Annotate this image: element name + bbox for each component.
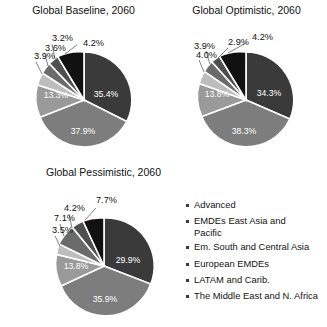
panel-title-baseline: Global Baseline, 2060 xyxy=(2,4,165,17)
legend-bullet-icon xyxy=(186,295,189,298)
legend-label-emdes-east-asia-pacific: EMDEs East Asia andPacific xyxy=(194,215,286,238)
slice-value-advanced: 35.4% xyxy=(94,89,119,99)
slice-value-advanced: 29.9% xyxy=(116,255,141,265)
legend-item-middle-east-n-africa: The Middle East and N. Africa xyxy=(186,290,327,301)
pie-svg-optimistic: 34.3% 38.3% 13.8% 4.0% 3.9% 2.9% 4.2% xyxy=(194,26,298,156)
legend-bullet-icon xyxy=(186,204,189,207)
legend-bullet-icon xyxy=(186,220,189,223)
slice-value-extra: 4.2% xyxy=(252,32,273,42)
legend-item-advanced: Advanced xyxy=(186,199,327,210)
legend-item-european-emdes: European EMDEs xyxy=(186,258,327,269)
pie-chart-figure: Global Baseline, 2060 35.4% xyxy=(0,0,327,327)
slice-value-em-south-central-asia: 13.8% xyxy=(64,261,89,271)
legend-label-advanced: Advanced xyxy=(194,199,236,210)
pie-baseline: 35.4% 37.9% 13.3% 3.9% 3.6% 3.2% 4.2% xyxy=(32,26,136,156)
panel-global-pessimistic: Global Pessimistic, 2060 29.9% 35.9% xyxy=(22,166,185,326)
slice-value-em-south-central-asia: 13.3% xyxy=(44,90,69,100)
legend-label-em-south-central-asia: Em. South and Central Asia xyxy=(194,241,309,252)
legend-label-latam-carib: LATAM and Carib. xyxy=(194,274,270,285)
legend-bullet-icon xyxy=(186,263,189,266)
panel-title-pessimistic: Global Pessimistic, 2060 xyxy=(22,166,185,179)
legend-label-european-emdes: European EMDEs xyxy=(194,258,269,269)
legend-label-line1: EMDEs East Asia and xyxy=(194,215,286,226)
legend-item-latam-carib: LATAM and Carib. xyxy=(186,274,327,285)
slice-value-emdes-east-asia-pacific: 35.9% xyxy=(93,294,118,304)
legend-label-line2: Pacific xyxy=(194,227,222,238)
slice-value-advanced: 34.3% xyxy=(257,88,282,98)
chart-legend: Advanced EMDEs East Asia andPacific Em. … xyxy=(186,199,327,307)
slice-value-em-south-central-asia: 13.8% xyxy=(205,89,230,99)
pie-pessimistic: 29.9% 35.9% 13.8% 3.5% 7.1% 4.2% 7.7% xyxy=(52,190,156,322)
pie-optimistic: 34.3% 38.3% 13.8% 4.0% 3.9% 2.9% 4.2% xyxy=(194,26,298,156)
legend-item-emdes-east-asia-pacific: EMDEs East Asia andPacific xyxy=(186,215,327,238)
legend-item-em-south-central-asia: Em. South and Central Asia xyxy=(186,241,327,252)
panel-global-optimistic: Global Optimistic, 2060 34.3% 38.3% 1 xyxy=(166,4,327,162)
slice-value-middle-east-n-africa: 3.2% xyxy=(52,33,73,43)
slice-value-latam-carib: 3.9% xyxy=(194,41,215,51)
legend-label-middle-east-n-africa: The Middle East and N. Africa xyxy=(194,290,318,301)
legend-bullet-icon xyxy=(186,279,189,282)
pie-svg-baseline: 35.4% 37.9% 13.3% 3.9% 3.6% 3.2% 4.2% xyxy=(32,26,136,156)
panel-title-optimistic: Global Optimistic, 2060 xyxy=(166,4,327,17)
slice-value-latam-carib: 3.6% xyxy=(45,43,66,53)
slice-value-emdes-east-asia-pacific: 38.3% xyxy=(232,126,257,136)
legend-bullet-icon xyxy=(186,246,189,249)
slice-value-european-emdes: 4.0% xyxy=(196,50,217,60)
slice-value-latam-carib: 7.1% xyxy=(54,213,75,223)
slice-value-extra: 7.7% xyxy=(96,195,117,205)
panel-global-baseline: Global Baseline, 2060 35.4% xyxy=(2,4,165,162)
slice-value-emdes-east-asia-pacific: 37.9% xyxy=(71,126,96,136)
slice-value-extra: 4.2% xyxy=(83,38,104,48)
slice-value-middle-east-n-africa: 2.9% xyxy=(228,37,249,47)
slice-value-european-emdes: 3.5% xyxy=(52,225,73,235)
slice-value-middle-east-n-africa: 4.2% xyxy=(64,203,85,213)
pie-svg-pessimistic: 29.9% 35.9% 13.8% 3.5% 7.1% 4.2% 7.7% xyxy=(52,190,156,322)
